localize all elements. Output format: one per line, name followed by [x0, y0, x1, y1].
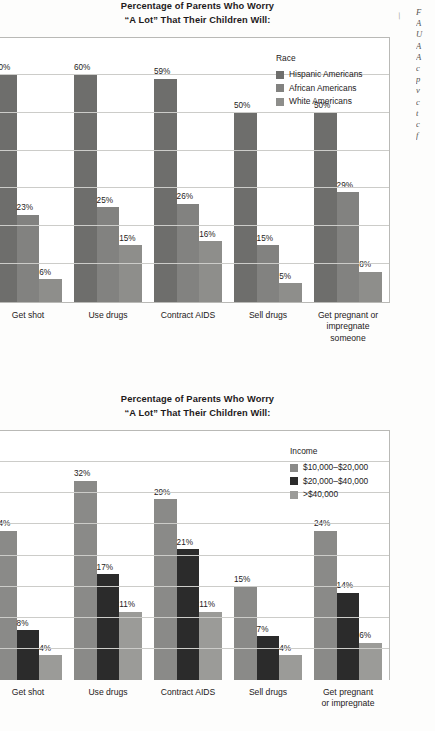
chart-race-legend: Race Hispanic AmericansAfrican Americans… — [276, 52, 363, 109]
bar-value-label: 6% — [359, 631, 371, 641]
bar[interactable]: 24% — [0, 531, 17, 680]
gridline — [0, 555, 389, 556]
bar[interactable]: 5% — [279, 283, 302, 302]
gridline — [0, 225, 389, 226]
bar-slot: 32% — [74, 431, 97, 680]
chart-race-plot-wrap: 60%23%6%60%25%15%59%26%16%50%15%5%50%29%… — [0, 37, 435, 349]
legend-item[interactable]: $20,000–$40,000 — [290, 475, 368, 489]
bar-slot: 17% — [97, 431, 120, 680]
bar-slot: 24% — [0, 431, 17, 680]
bar-value-label: 6% — [39, 268, 51, 278]
legend-item-label: $10,000–$20,000 — [303, 461, 368, 475]
bar[interactable]: 6% — [39, 279, 62, 302]
chart-income-title: Percentage of Parents Who Worry “A Lot” … — [0, 393, 435, 420]
bar[interactable]: 8% — [17, 630, 40, 680]
bar[interactable]: 50% — [234, 113, 257, 302]
category-label: Contract AIDS — [154, 687, 222, 698]
bar[interactable]: 24% — [314, 531, 337, 680]
legend-item[interactable]: $10,000–$20,000 — [290, 461, 368, 475]
chart-race-plot-area: 60%23%6%60%25%15%59%26%16%50%15%5%50%29%… — [0, 37, 390, 303]
category-label: Use drugs — [74, 687, 142, 698]
category-label: Sell drugs — [234, 310, 302, 321]
legend-item-label: >$40,000 — [303, 488, 338, 502]
bar-value-label: 8% — [359, 260, 371, 270]
bar[interactable]: 26% — [177, 204, 200, 302]
gridline — [0, 523, 389, 524]
chart-race-title: Percentage of Parents Who Worry “A Lot” … — [0, 0, 435, 27]
bar-slot: 7% — [257, 431, 280, 680]
legend-item[interactable]: Hispanic Americans — [276, 68, 363, 82]
legend-item[interactable]: >$40,000 — [290, 488, 368, 502]
bar[interactable]: 32% — [74, 481, 97, 680]
bar-slot: 15% — [234, 431, 257, 680]
legend-item-label: Hispanic Americans — [289, 68, 363, 82]
bar[interactable]: 15% — [257, 245, 280, 302]
legend-item[interactable]: White Americans — [276, 95, 363, 109]
bar[interactable]: 29% — [337, 192, 360, 302]
chart-income-block: Percentage of Parents Who Worry “A Lot” … — [0, 393, 435, 726]
bar-group: 29%21%11% — [154, 431, 222, 680]
bar-value-label: 11% — [199, 600, 215, 610]
category-label: Get shot — [0, 310, 62, 321]
bar-group: 32%17%11% — [74, 431, 142, 680]
legend-swatch-icon — [290, 477, 298, 485]
bar[interactable]: 23% — [17, 215, 40, 302]
bar-value-label: 16% — [199, 230, 215, 240]
bar-value-label: 26% — [177, 192, 193, 202]
bar-value-label: 21% — [177, 538, 193, 548]
gridline — [0, 112, 389, 113]
chart-income-plot-wrap: 24%8%4%32%17%11%29%21%11%15%7%4%24%14%6%… — [0, 430, 435, 726]
bar[interactable]: 17% — [97, 574, 120, 680]
legend-swatch-icon — [276, 71, 284, 79]
gridline — [0, 586, 389, 587]
bar[interactable]: 16% — [199, 241, 222, 302]
legend-item-label: $20,000–$40,000 — [303, 475, 368, 489]
bar[interactable]: 50% — [314, 113, 337, 302]
bar-value-label: 17% — [97, 563, 113, 573]
bar-value-label: 15% — [257, 234, 273, 244]
bar[interactable]: 29% — [154, 499, 177, 680]
bar-value-label: 60% — [0, 63, 10, 73]
bar-group: 24%8%4% — [0, 431, 62, 680]
gridline — [0, 617, 389, 618]
category-label: Use drugs — [74, 310, 142, 321]
legend-rows-race: Hispanic AmericansAfrican AmericansWhite… — [276, 68, 363, 109]
legend-title-income: Income — [290, 445, 368, 459]
gridline — [0, 648, 389, 649]
category-label: Sell drugs — [234, 687, 302, 698]
bar-slot: 29% — [154, 431, 177, 680]
bar-slot: 4% — [39, 431, 62, 680]
bar-value-label: 25% — [97, 196, 113, 206]
legend-item-label: African Americans — [289, 82, 357, 96]
gridline — [0, 263, 389, 264]
bar[interactable]: 7% — [257, 636, 280, 680]
category-label: Get pregnant or impregnate someone — [314, 310, 382, 344]
legend-item[interactable]: African Americans — [276, 82, 363, 96]
chart-income-category-labels: Get shotUse drugsContract AIDSSell drugs… — [0, 680, 390, 726]
bar[interactable]: 25% — [97, 207, 120, 302]
bar-value-label: 5% — [279, 272, 291, 282]
legend-swatch-icon — [290, 491, 298, 499]
bar[interactable]: 15% — [234, 587, 257, 680]
bar[interactable]: 14% — [337, 593, 360, 680]
category-label: Get shot — [0, 687, 62, 698]
bar[interactable]: 11% — [199, 612, 222, 680]
gridline — [0, 150, 389, 151]
bar[interactable]: 21% — [177, 549, 200, 680]
bar-value-label: 32% — [74, 469, 90, 479]
gridline — [0, 187, 389, 188]
bar[interactable]: 11% — [119, 612, 142, 680]
chart-income-legend: Income $10,000–$20,000$20,000–$40,000>$4… — [290, 445, 368, 502]
bar-value-label: 59% — [154, 67, 170, 77]
category-label: Contract AIDS — [154, 310, 222, 321]
bar[interactable]: 8% — [359, 272, 382, 302]
chart-income-plot-area: 24%8%4%32%17%11%29%21%11%15%7%4%24%14%6%… — [0, 430, 390, 680]
legend-swatch-icon — [276, 84, 284, 92]
bar[interactable]: 4% — [39, 655, 62, 680]
chart-race-category-labels: Get shotUse drugsContract AIDSSell drugs… — [0, 303, 390, 349]
bar[interactable]: 4% — [279, 655, 302, 680]
bar-value-label: 11% — [119, 600, 135, 610]
bar[interactable]: 15% — [119, 245, 142, 302]
bar-value-label: 15% — [234, 575, 250, 585]
bar-value-label: 15% — [119, 234, 135, 244]
